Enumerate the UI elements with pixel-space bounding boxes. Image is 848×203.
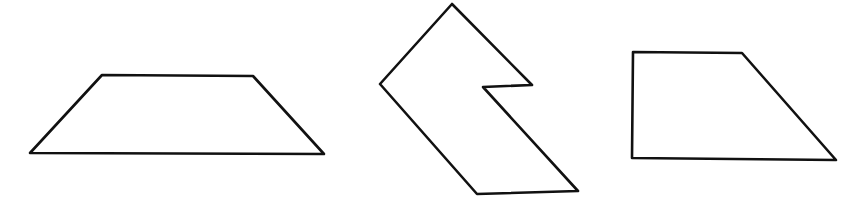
- notched-parallelogram-shape: [380, 4, 578, 194]
- trapezoid-shape: [30, 75, 324, 154]
- diagram-canvas: [0, 0, 848, 203]
- right-trapezoid-shape: [632, 52, 836, 160]
